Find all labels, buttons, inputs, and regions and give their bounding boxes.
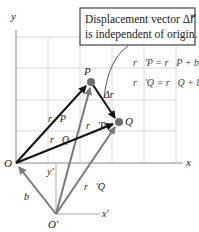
point-P — [87, 78, 95, 86]
label-P: P — [83, 65, 91, 77]
label-b: b⃗ — [24, 191, 37, 202]
displacement-diagram: y x y′ x′ Displacement vector Δr⃗ is ind… — [0, 0, 199, 232]
label-rQ-prime: r⃗′Q — [84, 181, 106, 192]
label-delta-r: Δr⃗ — [103, 89, 122, 100]
equation-rP-prime: r⃗′P = r⃗P + b⃗ — [133, 57, 199, 68]
point-Q — [115, 118, 123, 126]
label-origin-prime: O′ — [48, 218, 59, 230]
label-rP: r⃗P — [48, 113, 66, 124]
label-origin: O — [4, 157, 12, 169]
grid — [16, 37, 176, 163]
vector-rP — [16, 86, 86, 163]
callout-line-1: Displacement vector Δr⃗ — [85, 13, 196, 26]
x-prime-axis-label: x′ — [101, 208, 109, 219]
equation-rQ-prime: r⃗′Q = r⃗Q + b⃗ — [133, 77, 199, 88]
vector-rP-prime — [56, 88, 90, 214]
y-prime-axis-label: y′ — [46, 166, 54, 177]
label-Q: Q — [125, 115, 133, 127]
callout-line-2: is independent of origin. — [85, 28, 198, 41]
label-rQ: r⃗Q — [50, 134, 70, 145]
x-axis-label: x — [185, 156, 191, 168]
y-axis-label: y — [10, 10, 16, 22]
label-rP-prime: r⃗′P — [86, 120, 106, 131]
